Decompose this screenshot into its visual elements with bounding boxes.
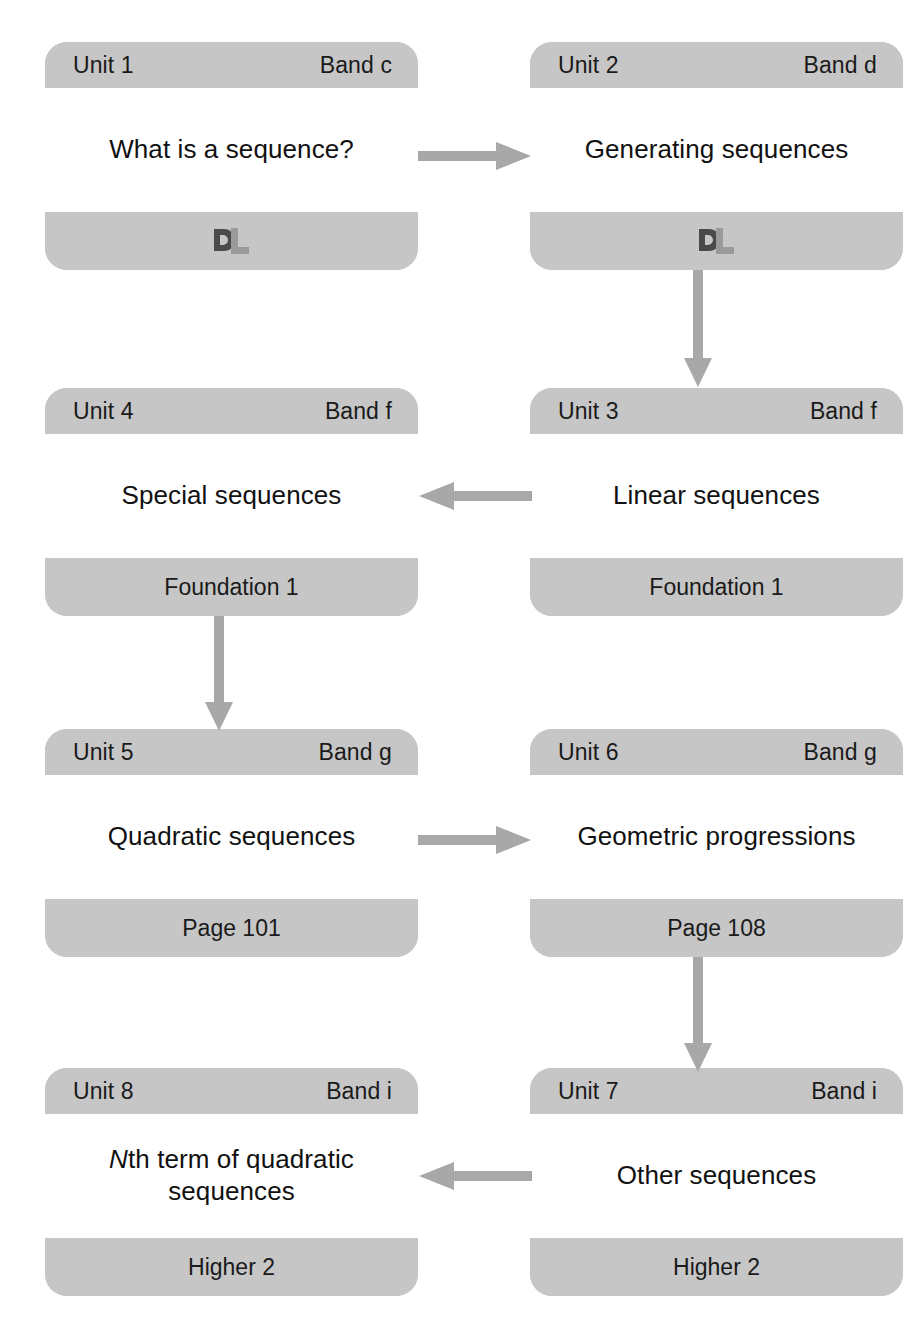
arrow-unit3-to-unit4 — [418, 478, 532, 514]
card-header: Unit 1 Band c — [45, 42, 418, 88]
card-title: What is a sequence? — [109, 134, 354, 166]
card-footer-text: Higher 2 — [673, 1256, 760, 1279]
band-label: Band d — [804, 54, 878, 77]
arrow-unit2-to-unit3 — [682, 270, 714, 388]
card-header: Unit 7 Band i — [530, 1068, 903, 1114]
card-body: What is a sequence? — [45, 88, 418, 212]
band-label: Band g — [319, 741, 393, 764]
card-title: Special sequences — [122, 480, 342, 512]
card-footer-text: Page 108 — [667, 917, 765, 940]
band-label: Band f — [325, 400, 392, 423]
unit-card-unit-1[interactable]: Unit 1 Band c What is a sequence? — [45, 42, 418, 270]
band-label: Band c — [320, 54, 392, 77]
card-footer: Foundation 1 — [45, 558, 418, 616]
card-header: Unit 2 Band d — [530, 42, 903, 88]
unit-card-unit-3[interactable]: Unit 3 Band f Linear sequences Foundatio… — [530, 388, 903, 616]
arrow-unit1-to-unit2 — [418, 138, 532, 174]
card-header: Unit 3 Band f — [530, 388, 903, 434]
unit-card-unit-8[interactable]: Unit 8 Band i Nth term of quadratic sequ… — [45, 1068, 418, 1296]
card-footer — [45, 212, 418, 270]
unit-label: Unit 1 — [73, 54, 134, 77]
card-title-rest: th term of quadratic sequences — [128, 1144, 354, 1206]
dl-monogram-logo-icon — [211, 226, 253, 256]
card-title-italic-prefix: N — [109, 1144, 128, 1174]
unit-card-unit-4[interactable]: Unit 4 Band f Special sequences Foundati… — [45, 388, 418, 616]
card-header: Unit 4 Band f — [45, 388, 418, 434]
card-body: Special sequences — [45, 434, 418, 558]
unit-label: Unit 6 — [558, 741, 619, 764]
card-footer-text: Foundation 1 — [649, 576, 783, 599]
card-header: Unit 6 Band g — [530, 729, 903, 775]
card-footer-text: Higher 2 — [188, 1256, 275, 1279]
unit-label: Unit 8 — [73, 1080, 134, 1103]
card-footer: Page 101 — [45, 899, 418, 957]
band-label: Band f — [810, 400, 877, 423]
band-label: Band i — [326, 1080, 392, 1103]
flowchart-canvas: Unit 1 Band c What is a sequence? Unit 2… — [0, 0, 913, 1332]
card-body: Generating sequences — [530, 88, 903, 212]
unit-card-unit-7[interactable]: Unit 7 Band i Other sequences Higher 2 — [530, 1068, 903, 1296]
card-title: Other sequences — [617, 1160, 817, 1192]
band-label: Band g — [804, 741, 878, 764]
unit-label: Unit 3 — [558, 400, 619, 423]
card-footer-text: Foundation 1 — [164, 576, 298, 599]
unit-label: Unit 5 — [73, 741, 134, 764]
arrow-unit6-to-unit7 — [682, 957, 714, 1073]
card-footer: Higher 2 — [45, 1238, 418, 1296]
unit-card-unit-2[interactable]: Unit 2 Band d Generating sequences — [530, 42, 903, 270]
card-title: Quadratic sequences — [108, 821, 356, 853]
card-body: Geometric progressions — [530, 775, 903, 899]
arrow-unit5-to-unit6 — [418, 822, 532, 858]
card-title: Geometric progressions — [577, 821, 855, 853]
band-label: Band i — [811, 1080, 877, 1103]
dl-monogram-logo-icon — [696, 226, 738, 256]
unit-label: Unit 2 — [558, 54, 619, 77]
card-body: Nth term of quadratic sequences — [45, 1114, 418, 1238]
card-footer-text: Page 101 — [182, 917, 280, 940]
arrow-unit7-to-unit8 — [418, 1158, 532, 1194]
card-title: Generating sequences — [585, 134, 849, 166]
card-footer: Foundation 1 — [530, 558, 903, 616]
unit-card-unit-6[interactable]: Unit 6 Band g Geometric progressions Pag… — [530, 729, 903, 957]
card-header: Unit 5 Band g — [45, 729, 418, 775]
card-body: Other sequences — [530, 1114, 903, 1238]
arrow-unit4-to-unit5 — [203, 616, 235, 732]
card-header: Unit 8 Band i — [45, 1068, 418, 1114]
unit-card-unit-5[interactable]: Unit 5 Band g Quadratic sequences Page 1… — [45, 729, 418, 957]
card-footer: Higher 2 — [530, 1238, 903, 1296]
unit-label: Unit 7 — [558, 1080, 619, 1103]
card-body: Quadratic sequences — [45, 775, 418, 899]
card-title: Nth term of quadratic sequences — [63, 1144, 400, 1207]
card-footer: Page 108 — [530, 899, 903, 957]
unit-label: Unit 4 — [73, 400, 134, 423]
card-footer — [530, 212, 903, 270]
card-title: Linear sequences — [613, 480, 820, 512]
card-body: Linear sequences — [530, 434, 903, 558]
